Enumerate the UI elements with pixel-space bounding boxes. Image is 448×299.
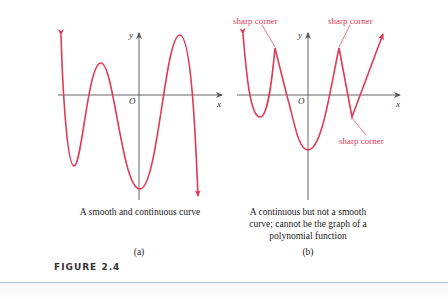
sharp-corner-leader-3 [352,118,366,135]
sharp-corner-label-2: sharp corner [328,16,373,26]
panel-a-x-label: x [216,99,221,109]
sharp-corner-label-3: sharp corner [339,136,384,146]
panel-b-caption-line-3: polynomial function [228,230,388,242]
panel-b-x-label: x [395,99,400,109]
panel-b-caption-line-2: curve; cannot be the graph of a [228,218,388,230]
panel-a-origin-label: O [129,96,136,106]
sharp-corner-leader-1 [262,25,275,47]
sharp-corner-leader-2 [339,25,350,47]
panel-b-nonsmooth-curve [243,34,383,150]
panel-a-y-label: y [128,30,133,40]
panel-b-caption: A continuous but not a smooth curve; can… [228,206,388,242]
panel-a-smooth-curve [61,35,198,196]
panel-b-y-label: y [297,30,302,40]
panel-b-caption-line-1: A continuous but not a smooth [228,206,388,218]
panel-a-label: (a) [124,247,154,257]
panel-b-label: (b) [293,247,323,257]
panel-b-graph: sharp corner sharp corner sharp corner y… [233,16,400,200]
panel-a-caption: A smooth and continuous curve [60,206,220,218]
figure-graphics: y O x sharp corner sharp corner sharp co… [0,0,448,299]
figure-title: FIGURE 2.4 [54,262,120,272]
panel-a-graph: y O x [58,30,222,200]
bottom-strip [0,283,448,299]
panel-b-origin-label: O [298,96,305,106]
sharp-corner-label-1: sharp corner [233,16,278,26]
figure-2-4: y O x sharp corner sharp corner sharp co… [0,0,448,299]
